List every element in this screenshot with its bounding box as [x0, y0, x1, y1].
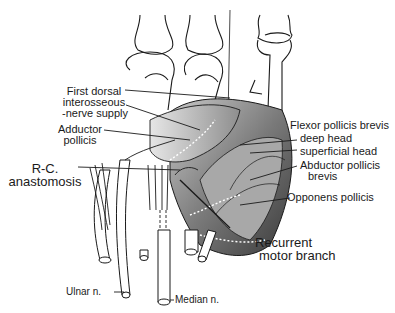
label-opponens-pollicis: Opponens pollicis: [287, 192, 374, 203]
label-ulnar-nerve: Ulnar n.: [66, 287, 101, 297]
label-first-dorsal-interosseous: First dorsal interosseous -nerve supply: [62, 86, 126, 119]
label-flexor-pollicis-brevis: Flexor pollicis brevis: [290, 120, 389, 131]
label-adductor-pollicis: Adductor pollicis: [55, 124, 105, 146]
label-superficial-head: superficial head: [300, 146, 377, 157]
label-line: brevis: [300, 171, 380, 182]
label-line: motor branch: [255, 249, 336, 262]
label-line: -nerve supply: [62, 108, 126, 119]
label-recurrent-motor-branch: Recurrent motor branch: [255, 236, 336, 262]
label-median-nerve: Median n.: [175, 295, 219, 305]
label-rc-anastomosis: R-C. anastomosis: [2, 162, 88, 188]
label-line: pollicis: [55, 135, 105, 146]
label-line: anastomosis: [2, 175, 88, 188]
label-deep-head: deep head: [300, 133, 352, 144]
label-abductor-pollicis-brevis: Abductor pollicis brevis: [300, 160, 380, 182]
